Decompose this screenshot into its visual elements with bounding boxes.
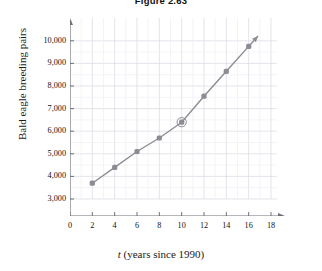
x-tick-label: 14 (216, 222, 236, 230)
data-point[interactable] (246, 44, 251, 49)
x-tick-label: 6 (127, 222, 147, 230)
plot-area (70, 18, 285, 216)
data-point[interactable] (224, 69, 229, 74)
data-point[interactable] (112, 165, 117, 170)
x-tick-label: 0 (60, 222, 80, 230)
y-tick-label: 10,000 (24, 37, 66, 45)
x-axis-title-rest: (years since 1990) (121, 248, 204, 260)
trend-line (92, 46, 248, 183)
y-tick-label: 6,000 (24, 127, 66, 135)
y-tick-label: 5,000 (24, 150, 66, 158)
x-tick-label: 4 (105, 222, 125, 230)
x-tick-label: 18 (261, 222, 281, 230)
data-point[interactable] (201, 94, 206, 99)
y-tick-label: 7,000 (24, 105, 66, 113)
x-tick-label: 12 (194, 222, 214, 230)
x-tick-label: 16 (239, 222, 259, 230)
data-point[interactable] (157, 135, 162, 140)
x-tick-label: 10 (172, 222, 192, 230)
data-point[interactable] (134, 149, 139, 154)
x-tick-labels: 024681012141618 (0, 222, 322, 234)
y-tick-label: 4,000 (24, 172, 66, 180)
y-tick-label: 8,000 (24, 82, 66, 90)
data-point[interactable] (179, 120, 184, 125)
x-tick-label: 2 (82, 222, 102, 230)
x-tick-label: 8 (149, 222, 169, 230)
data-point[interactable] (90, 181, 95, 186)
data-series-layer (70, 18, 285, 216)
figure-container: Figure 2.63 Bald eagle breeding pairs t … (0, 0, 322, 271)
y-tick-label: 3,000 (24, 195, 66, 203)
y-tick-label: 9,000 (24, 59, 66, 67)
